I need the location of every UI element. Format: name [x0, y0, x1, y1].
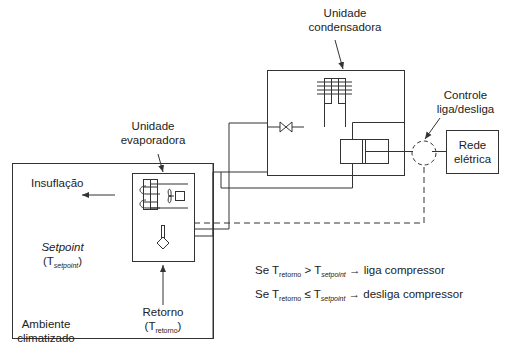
on-off-control-label-line1: Controle: [423, 88, 508, 102]
return-title: Retorno: [133, 305, 193, 319]
fan-icon: [168, 189, 184, 203]
expansion-valve-icon: [280, 122, 304, 132]
power-grid-label: Rede elétrica: [446, 138, 499, 166]
supply-air-label: Insuflação: [31, 176, 83, 190]
setpoint-label: Setpoint (Tsetpoint): [30, 240, 95, 268]
temperature-sensor-icon: [157, 226, 169, 250]
evaporator-unit-label: Unidade evaporadora: [108, 119, 198, 147]
control-rule-on: Se Tretorno > Tsetpoint → liga compresso…: [255, 263, 445, 277]
condenser-coil-icon: [317, 79, 352, 128]
on-off-control-label: Controle liga/desliga: [423, 88, 508, 116]
room-label-line1: Ambiente: [14, 317, 78, 331]
setpoint-symbol: (Tsetpoint): [30, 254, 95, 268]
evaporator-unit-label-line2: evaporadora: [108, 133, 198, 147]
condenser-unit-label-line1: Unidade: [290, 6, 400, 20]
condenser-unit-label: Unidade condensadora: [290, 6, 400, 34]
return-symbol: (Tretorno): [133, 319, 193, 333]
condenser-unit-label-line2: condensadora: [290, 20, 400, 34]
on-off-control-label-line2: liga/desliga: [423, 102, 508, 116]
refrigerant-pipes: [194, 123, 353, 338]
power-grid-label-line2: elétrica: [446, 152, 499, 166]
setpoint-title: Setpoint: [30, 240, 95, 254]
evaporator-coil-icon: [140, 180, 188, 210]
conditioned-room-label: Ambiente climatizado: [14, 317, 78, 345]
return-air-label: Retorno (Tretorno): [133, 305, 193, 333]
room-label-line2: climatizado: [14, 331, 78, 345]
on-off-control-switch: [412, 141, 436, 165]
power-grid-label-line1: Rede: [446, 138, 499, 152]
control-rule-off: Se Tretorno ≤ Tsetpoint → desliga compre…: [255, 287, 463, 301]
compressor-icon: [341, 140, 414, 164]
evaporator-unit-label-line1: Unidade: [108, 119, 198, 133]
